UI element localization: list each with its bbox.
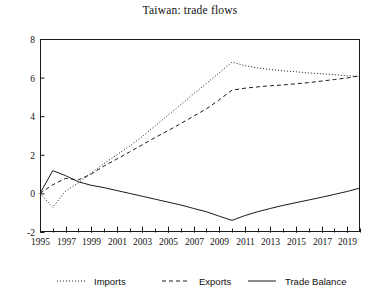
x-axis-tick-label: 1999 — [82, 237, 101, 247]
x-axis-tick-label: 1997 — [57, 237, 76, 247]
y-axis-tick-label: 0 — [30, 189, 35, 199]
y-axis-tick-label: 6 — [30, 74, 35, 84]
x-axis-tick-label: 2017 — [313, 237, 332, 247]
y-axis-tick-label: 2 — [30, 151, 35, 161]
series-line-trade-balance — [40, 171, 360, 221]
x-axis-tick-label: 2015 — [287, 237, 306, 247]
plot-frame — [41, 40, 360, 232]
x-axis-tick-label: 2009 — [210, 237, 229, 247]
x-axis-tick-label: 2019 — [338, 237, 357, 247]
legend-label-trade-balance: Trade Balance — [285, 276, 346, 287]
x-axis-tick-label: 2007 — [185, 237, 204, 247]
x-axis-tick-label: 2003 — [133, 237, 152, 247]
x-axis-tick-label: 1995 — [31, 237, 50, 247]
x-axis-tick-label: 2005 — [159, 237, 178, 247]
y-axis-tick-label: 4 — [30, 112, 35, 122]
x-axis-tick-label: 2013 — [261, 237, 280, 247]
legend-label-exports: Exports — [199, 276, 231, 287]
chart-page: Taiwan: trade flows -2024681995199719992… — [0, 0, 380, 302]
line-chart: -202468199519971999200120032005200720092… — [0, 0, 380, 302]
x-axis-tick-label: 2011 — [236, 237, 255, 247]
series-line-imports — [40, 62, 360, 207]
y-axis-tick-label: 8 — [30, 35, 35, 45]
legend-label-imports: Imports — [94, 276, 126, 287]
x-axis-tick-label: 2001 — [108, 237, 127, 247]
